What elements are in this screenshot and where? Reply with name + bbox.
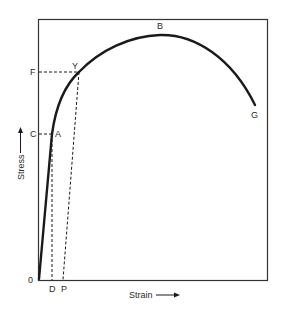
axis-marker-p: P [61,284,67,294]
y-axis-arrow-icon [18,127,23,133]
point-label-y: Y [72,61,78,71]
origin-label: 0 [28,275,33,285]
plot-frame [39,20,268,281]
x-axis-arrow-icon [174,293,180,298]
y-axis-title-group: Stress [16,127,26,180]
y-axis-title: Stress [16,154,26,180]
point-label-a: A [55,129,61,139]
x-axis-title: Strain [129,290,153,300]
axis-marker-f: F [30,67,36,77]
point-label-b: B [157,21,163,31]
dashed-line-y-p [63,72,79,280]
x-axis-title-group: Strain [129,290,180,300]
stress-strain-diagram: A Y B G C F D P 0 Stress Strain [0,0,281,310]
axis-marker-c: C [30,129,37,139]
point-label-g: G [251,110,258,120]
axis-marker-d: D [49,284,56,294]
